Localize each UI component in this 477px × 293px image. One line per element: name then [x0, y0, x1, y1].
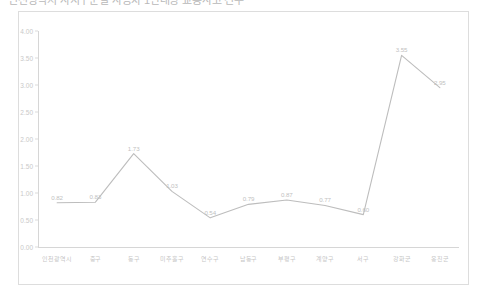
- y-tick-label: 1.50: [20, 163, 33, 170]
- y-tick-label: 3.50: [20, 55, 33, 62]
- data-point-label: 3.55: [396, 46, 408, 53]
- data-point-label: 1.73: [128, 145, 140, 152]
- x-tick-label: 중구: [90, 254, 102, 263]
- series-polyline: [57, 55, 440, 218]
- page-title: 인천광역시 자치구군별 자동차 1만대당 교통사고 건수: [8, 0, 244, 7]
- data-point-label: 0.79: [243, 195, 255, 202]
- y-tick-label: 2.00: [20, 136, 33, 143]
- data-point-label: 0.77: [319, 196, 331, 203]
- x-tick-label: 동구: [128, 254, 140, 263]
- data-point-label: 0.60: [357, 206, 369, 213]
- data-point-label: 0.83: [90, 193, 102, 200]
- y-tick-label: 4.00: [20, 28, 33, 35]
- data-point-label: 1.03: [166, 182, 178, 189]
- plot-area: 0.000.501.001.502.002.503.003.504.00 인천광…: [38, 31, 459, 247]
- y-tick-label: 2.50: [20, 109, 33, 116]
- data-point-label: 0.54: [204, 209, 216, 216]
- x-tick-label: 강화군: [393, 254, 411, 263]
- data-point-label: 2.95: [434, 79, 446, 86]
- chart-title-clipped: 인천광역시 자치구군별 자동차 1만대당 교통사고 건수: [8, 0, 308, 8]
- x-tick-label: 옹진군: [431, 254, 449, 263]
- x-tick-label: 연수구: [201, 254, 219, 263]
- data-point-label: 0.87: [281, 191, 293, 198]
- x-tick-label: 계양구: [316, 254, 334, 263]
- x-tick-label: 남동구: [240, 254, 258, 263]
- data-point-label: 0.82: [51, 194, 63, 201]
- y-tick-label: 0.00: [20, 244, 33, 251]
- x-axis-line: [38, 247, 459, 248]
- y-tick-label: 0.50: [20, 217, 33, 224]
- line-series: [38, 31, 459, 247]
- chart-page: 인천광역시 자치구군별 자동차 1만대당 교통사고 건수 0.000.501.0…: [0, 0, 477, 293]
- y-tick-label: 1.00: [20, 190, 33, 197]
- x-tick-label: 부평구: [278, 254, 296, 263]
- x-tick-label: 미추홀구: [160, 254, 184, 263]
- x-tick-label: 서구: [357, 254, 369, 263]
- y-tick-label: 3.00: [20, 82, 33, 89]
- x-tick-label: 인천광역시: [42, 254, 72, 263]
